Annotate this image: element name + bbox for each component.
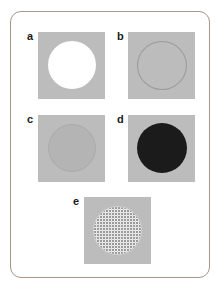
panel-e-label: e bbox=[73, 196, 79, 207]
panel-d-disc bbox=[137, 123, 187, 173]
panel-d-label: d bbox=[117, 114, 124, 125]
panel-b-plate bbox=[128, 32, 195, 99]
panel-e-disc bbox=[93, 206, 142, 255]
panel-c-plate bbox=[38, 115, 105, 182]
panel-c-label: c bbox=[27, 114, 33, 125]
panel-b-disc bbox=[137, 41, 187, 90]
panel-e-plate bbox=[84, 197, 151, 264]
panel-d-plate bbox=[128, 115, 195, 182]
panel-c-disc bbox=[48, 124, 96, 172]
panel-grid: a b c d e bbox=[0, 0, 224, 292]
panel-a-plate bbox=[38, 32, 105, 99]
panel-a-disc bbox=[48, 41, 96, 89]
panel-a-label: a bbox=[27, 31, 33, 42]
figure-root: a b c d e bbox=[0, 0, 224, 292]
panel-b-label: b bbox=[117, 31, 124, 42]
